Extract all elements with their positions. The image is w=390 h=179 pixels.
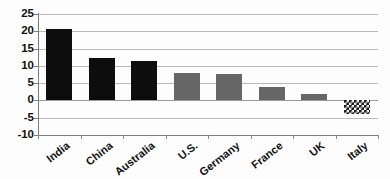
y-tick-label-0: 0	[2, 94, 34, 106]
x-tick-mark-4	[208, 135, 209, 139]
bar-france	[259, 87, 285, 101]
x-tick-mark-7	[336, 135, 337, 139]
x-label-india: India	[0, 140, 72, 179]
x-label-china: China	[21, 140, 114, 179]
x-tick-mark-3	[166, 135, 167, 139]
y-tick-label--5: -5	[2, 112, 34, 124]
bar-china	[89, 58, 115, 100]
bar-chart: 2520151050-5-10 IndiaChinaAustraliaU.S.G…	[0, 0, 390, 179]
y-tick-label--10: -10	[2, 129, 34, 141]
bar-germany	[216, 74, 242, 101]
x-tick-mark-2	[123, 135, 124, 139]
x-tick-mark-8	[378, 135, 379, 139]
x-tick-mark-1	[81, 135, 82, 139]
x-label-italy: Italy	[276, 140, 369, 179]
bar-u-s	[174, 73, 200, 101]
x-tick-mark-5	[251, 135, 252, 139]
y-tick-label-20: 20	[2, 25, 34, 37]
x-label-australia: Australia	[64, 140, 157, 179]
bar-italy	[344, 100, 370, 114]
bar-series	[38, 14, 378, 135]
x-tick-mark-6	[293, 135, 294, 139]
bar-australia	[131, 61, 157, 100]
x-label-u-s: U.S.	[106, 140, 199, 179]
bar-uk	[301, 94, 327, 100]
y-tick-label-5: 5	[2, 77, 34, 89]
y-tick-label-10: 10	[2, 60, 34, 72]
y-tick-label-25: 25	[2, 8, 34, 20]
x-label-france: France	[191, 140, 284, 179]
x-label-uk: UK	[234, 140, 327, 179]
bar-india	[46, 29, 72, 101]
y-tick-label-15: 15	[2, 43, 34, 55]
x-tick-mark-0	[38, 135, 39, 139]
x-label-germany: Germany	[149, 140, 242, 179]
